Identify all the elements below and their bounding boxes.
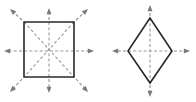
rhombus-panel (112, 5, 190, 97)
arrow-up-right-head (82, 9, 88, 15)
arrow-up-head (47, 8, 52, 14)
arrow-down-left-shaft (14, 79, 22, 88)
figure-canvas (0, 0, 196, 102)
arrow-down-right-shaft (76, 79, 84, 88)
arrow-up-left-head (10, 9, 16, 15)
arrow-right-head (88, 49, 94, 54)
symmetry-diagram (0, 0, 196, 102)
arrow-down-left-head (10, 86, 16, 92)
arrow-down-head (47, 87, 52, 93)
arrow-up-left-shaft (14, 13, 22, 20)
arrow-right-head (184, 49, 190, 54)
arrow-up-head (148, 5, 153, 11)
arrow-left-head (112, 49, 118, 54)
arrow-up-right-shaft (76, 13, 84, 20)
arrow-left-head (4, 49, 10, 54)
arrow-down-right-head (82, 86, 88, 92)
square-panel (4, 8, 94, 93)
arrow-down-head (148, 91, 153, 97)
